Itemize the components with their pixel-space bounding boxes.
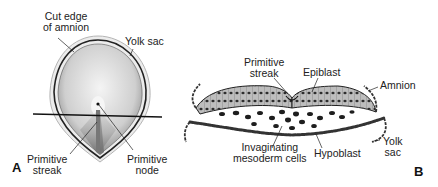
panel-letter-a: A — [12, 160, 21, 175]
label-primitive-node: Primitive node — [127, 154, 167, 176]
label-cut-edge-amnion: Cut edge of amnion — [43, 11, 89, 33]
label-yolk-sac-a: Yolk sac — [125, 36, 164, 47]
label-primitive-streak-a: Primitive streak — [27, 154, 67, 176]
label-primitive-streak-b: Primitive streak — [244, 57, 284, 79]
label-amnion: Amnion — [380, 80, 416, 91]
label-line: of amnion — [43, 22, 89, 33]
label-line: streak — [244, 68, 284, 79]
embryonic-disc-cross-section — [185, 78, 386, 148]
label-hypoblast: Hypoblast — [314, 148, 361, 159]
embryonic-disc-dorsal-view — [33, 36, 162, 162]
label-epiblast: Epiblast — [303, 67, 340, 78]
label-yolk-sac-b: Yolk sac — [383, 136, 402, 158]
label-invaginating-mesoderm: Invaginating mesoderm cells — [233, 142, 307, 164]
panel-letter-b: B — [414, 164, 423, 179]
label-line: node — [127, 165, 167, 176]
label-line: streak — [27, 165, 67, 176]
label-line: sac — [383, 147, 402, 158]
label-line: mesoderm cells — [233, 153, 307, 164]
